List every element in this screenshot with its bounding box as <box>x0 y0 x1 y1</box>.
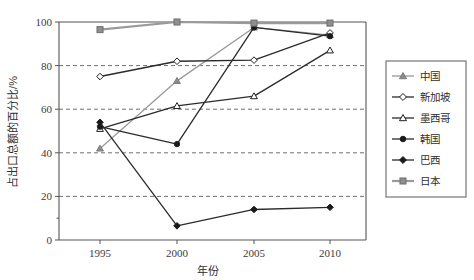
y-tick-label-100: 100 <box>36 16 53 28</box>
y-tick-label-0: 0 <box>47 234 53 246</box>
chart-figure: 020406080100 1995200020052010 占出口总额的百分比/… <box>0 0 474 280</box>
chart-legend: 中国新加坡墨西哥韩国巴西日本 <box>386 61 466 197</box>
legend-label-日本: 日本 <box>420 175 441 187</box>
line-chart: 020406080100 1995200020052010 占出口总额的百分比/… <box>0 0 474 280</box>
y-tick-label-80: 80 <box>41 60 53 72</box>
legend-label-新加坡: 新加坡 <box>420 91 451 103</box>
legend-label-韩国: 韩国 <box>420 133 440 145</box>
series-日本-point-2005-marker <box>251 20 257 26</box>
legend-label-中国: 中国 <box>420 70 440 82</box>
x-tick-label-1995: 1995 <box>89 247 112 259</box>
series-韩国-point-2010-marker <box>327 34 332 39</box>
legend-日本-marker <box>400 178 406 184</box>
series-日本-point-2010-marker <box>327 20 333 26</box>
y-tick-label-20: 20 <box>41 190 53 202</box>
x-tick-label-2005: 2005 <box>243 247 266 259</box>
series-日本-point-1995-marker <box>97 27 103 33</box>
series-日本-point-2000-marker <box>174 19 180 25</box>
series-韩国-point-2000-marker <box>174 141 179 146</box>
x-axis-title: 年份 <box>197 264 219 277</box>
x-tick-label-2000: 2000 <box>166 247 189 259</box>
y-axis-title: 占出口总额的百分比/% <box>6 76 19 188</box>
y-tick-label-60: 60 <box>41 103 53 115</box>
y-tick-label-40: 40 <box>41 147 53 159</box>
legend-韩国-marker <box>400 136 406 142</box>
x-tick-label-2010: 2010 <box>319 247 342 259</box>
legend-label-墨西哥: 墨西哥 <box>420 112 450 124</box>
legend-label-巴西: 巴西 <box>420 154 440 166</box>
